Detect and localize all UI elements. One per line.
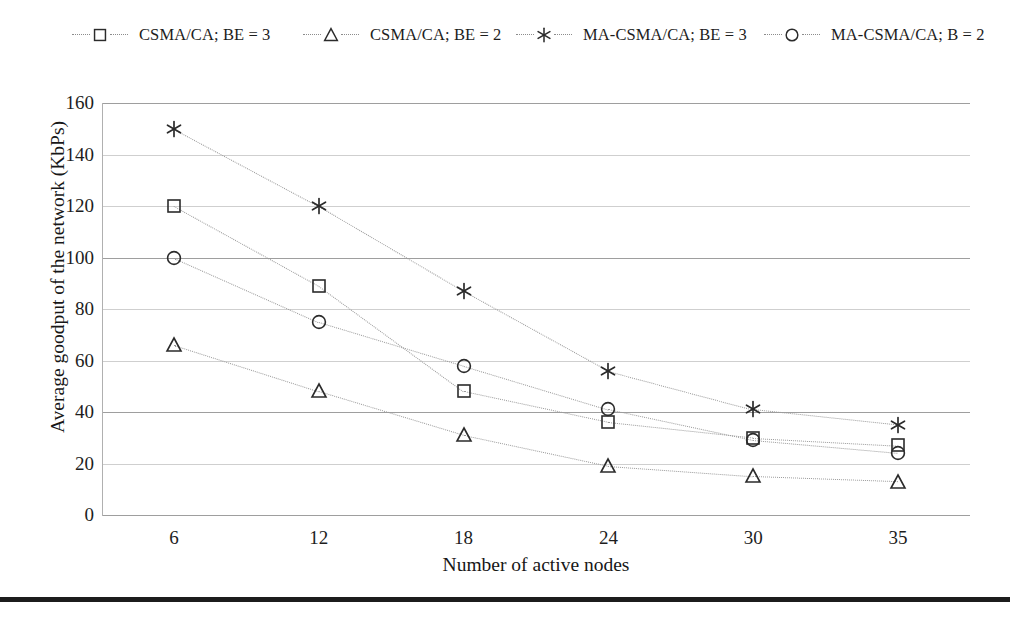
series-connector-line [608, 371, 753, 411]
legend-item-label: MA-CSMA/CA; BE = 3 [583, 25, 747, 45]
series-connector-line [463, 391, 608, 423]
series-connector-line [174, 258, 319, 323]
gridline [102, 103, 970, 104]
triangle-marker-icon [597, 455, 619, 477]
x-tick-label: 6 [144, 527, 204, 549]
legend-dash-right [554, 34, 572, 36]
gridline [102, 206, 970, 207]
legend-dash-left [764, 34, 782, 36]
circle-marker-icon [453, 355, 475, 377]
legend-dash-right [802, 34, 820, 36]
asterisk-marker-icon [534, 25, 554, 45]
gridline [102, 464, 970, 465]
gridline [102, 258, 970, 259]
x-axis-ticks: 61218243035 [102, 527, 970, 553]
legend-item[interactable]: CSMA/CA; BE = 3 [72, 14, 270, 56]
triangle-marker-icon [887, 471, 909, 493]
legend-item-label: CSMA/CA; BE = 2 [370, 25, 501, 45]
legend-dash-left [303, 34, 321, 36]
plot-area [102, 103, 970, 515]
legend-dash-left [516, 34, 534, 36]
series-connector-line [174, 129, 319, 207]
series-connector-line [318, 286, 463, 392]
triangle-marker-icon [308, 380, 330, 402]
chart-legend: CSMA/CA; BE = 3CSMA/CA; BE = 2MA-CSMA/CA… [0, 14, 1010, 56]
legend-item[interactable]: CSMA/CA; BE = 2 [303, 14, 501, 56]
square-marker-icon [453, 380, 475, 402]
y-axis-line [102, 103, 103, 516]
series-connector-line [174, 206, 319, 287]
legend-dash-right [341, 34, 359, 36]
series-connector-line [608, 409, 753, 441]
series-connector-line [753, 440, 898, 454]
triangle-marker-icon [453, 424, 475, 446]
triangle-marker-icon [321, 25, 341, 45]
triangle-marker-icon [742, 465, 764, 487]
legend-item-label: CSMA/CA; BE = 3 [139, 25, 270, 45]
asterisk-marker-icon [453, 280, 475, 302]
circle-marker-icon [597, 398, 619, 420]
circle-marker-icon [782, 25, 802, 45]
series-connector-line [608, 466, 753, 477]
asterisk-marker-icon [163, 118, 185, 140]
gridline [102, 155, 970, 156]
legend-item-label: MA-CSMA/CA; B = 2 [831, 25, 985, 45]
circle-marker-icon [742, 429, 764, 451]
square-marker-icon [90, 25, 110, 45]
series-connector-line [753, 438, 898, 447]
square-marker-icon [308, 275, 330, 297]
series-connector-line [608, 422, 753, 438]
series-connector-line [463, 366, 608, 411]
footer-rule [0, 597, 1010, 602]
x-tick-label: 30 [723, 527, 783, 549]
x-tick-label: 12 [289, 527, 349, 549]
asterisk-marker-icon [742, 398, 764, 420]
asterisk-marker-icon [597, 360, 619, 382]
series-connector-line [318, 206, 463, 292]
circle-marker-icon [308, 311, 330, 333]
legend-item[interactable]: MA-CSMA/CA; B = 2 [764, 14, 985, 56]
x-axis-title: Number of active nodes [102, 554, 970, 576]
asterisk-marker-icon [308, 195, 330, 217]
x-tick-label: 35 [868, 527, 928, 549]
gridline [102, 412, 970, 413]
triangle-marker-icon [163, 334, 185, 356]
series-connector-line [753, 476, 898, 482]
gridline [102, 361, 970, 362]
legend-item[interactable]: MA-CSMA/CA; BE = 3 [516, 14, 747, 56]
legend-dash-right [110, 34, 128, 36]
x-tick-label: 24 [578, 527, 638, 549]
gridline [102, 309, 970, 310]
circle-marker-icon [163, 247, 185, 269]
asterisk-marker-icon [887, 414, 909, 436]
circle-marker-icon [887, 442, 909, 464]
series-connector-line [174, 345, 319, 392]
y-axis-title: Average goodput of the network (KbPs) [47, 67, 69, 487]
legend-dash-left [72, 34, 90, 36]
square-marker-icon [163, 195, 185, 217]
series-connector-line [319, 391, 464, 436]
series-connector-line [463, 435, 608, 467]
y-tick-label: 0 [16, 505, 94, 524]
x-tick-label: 18 [434, 527, 494, 549]
gridline [102, 515, 970, 516]
